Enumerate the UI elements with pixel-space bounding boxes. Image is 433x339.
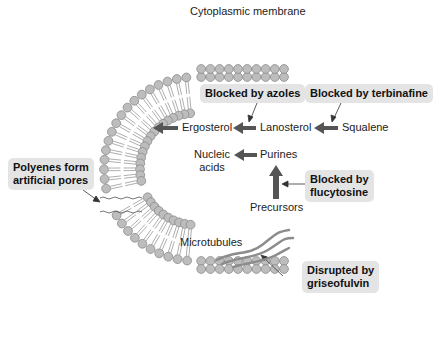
drug-box-terbinafine: Blocked by terbinafine [305,84,433,103]
label-nucleic-acids: Nucleic acids [194,148,230,174]
drug-box-flucytosine: Blocked by flucytosine [305,170,374,202]
label-squalene: Squalene [342,121,389,134]
drug-box-azoles: Blocked by azoles [200,84,305,103]
arrow-purines-to-nucleic-acids [234,149,257,161]
drug-box-griseofulvin: Disrupted by griseofulvin [302,261,379,293]
label-lanosterol: Lanosterol [260,121,311,134]
label-purines: Purines [260,148,297,161]
pore-gap [100,197,142,213]
label-precursors: Precursors [250,201,303,214]
drug-box-polyenes: Polyenes form artificial pores [8,158,94,190]
label-ergosterol: Ergosterol [182,121,232,134]
arrow-precursors-to-purines [269,165,283,199]
membrane-title: Cytoplasmic membrane [190,5,306,18]
arrow-lanosterol-to-ergosterol [233,122,256,134]
arrow-squalene-to-lanosterol [314,122,338,134]
label-microtubules: Microtubules [180,236,242,249]
